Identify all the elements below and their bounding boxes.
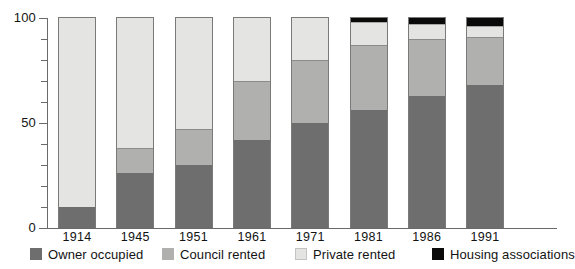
bar-segment-1971-private-rented <box>292 18 328 60</box>
bar-segment-1945-council-rented <box>117 148 153 173</box>
bar-segment-1914-private-rented <box>59 18 95 207</box>
bar-1951 <box>175 17 213 228</box>
legend-item-housing-associations: Housing associations <box>432 246 575 262</box>
bar-segment-1991-council-rented <box>467 37 503 85</box>
x-axis-tick-label-1971: 1971 <box>280 231 340 244</box>
plot-area: 050100 19141945195119611971198119861991 <box>0 0 562 236</box>
bar-segment-1945-owner-occupied <box>117 173 153 228</box>
bar-segment-1986-private-rented <box>409 24 445 39</box>
bars-layer <box>0 0 562 229</box>
legend-swatch-icon <box>295 248 307 260</box>
bar-segment-1991-housing-associations <box>467 18 503 26</box>
bar-1945 <box>116 17 154 228</box>
legend-item-council-rented: Council rented <box>162 246 265 262</box>
bar-segment-1945-private-rented <box>117 18 153 148</box>
x-axis-tick-label-1986: 1986 <box>397 231 457 244</box>
legend-item-owner-occupied: Owner occupied <box>30 246 143 262</box>
bar-segment-1971-owner-occupied <box>292 123 328 228</box>
bar-segment-1961-owner-occupied <box>234 140 270 228</box>
bar-segment-1951-council-rented <box>176 129 212 165</box>
bar-segment-1971-council-rented <box>292 60 328 123</box>
bar-segment-1914-owner-occupied <box>59 207 95 228</box>
x-axis-tick-label-1914: 1914 <box>47 231 107 244</box>
x-axis-tick-label-1951: 1951 <box>164 231 224 244</box>
chart-legend: Owner occupiedCouncil rentedPrivate rent… <box>0 246 562 266</box>
x-axis-tick-label-1991: 1991 <box>455 231 515 244</box>
x-axis-tick-label-1961: 1961 <box>222 231 282 244</box>
legend-label: Owner occupied <box>48 248 143 261</box>
legend-label: Private rented <box>313 248 395 261</box>
legend-swatch-icon <box>30 248 42 260</box>
legend-swatch-icon <box>432 248 444 260</box>
legend-item-private-rented: Private rented <box>295 246 395 262</box>
bar-segment-1986-owner-occupied <box>409 96 445 228</box>
legend-label: Housing associations <box>450 248 575 261</box>
bar-segment-1991-private-rented <box>467 26 503 37</box>
bar-segment-1961-council-rented <box>234 81 270 140</box>
bar-segment-1986-council-rented <box>409 39 445 96</box>
legend-label: Council rented <box>180 248 265 261</box>
bar-1981 <box>350 17 388 228</box>
bar-1991 <box>466 17 504 228</box>
bar-1986 <box>408 17 446 228</box>
bar-segment-1961-private-rented <box>234 18 270 81</box>
bar-segment-1981-owner-occupied <box>351 110 387 228</box>
bar-1971 <box>291 17 329 228</box>
bar-segment-1981-private-rented <box>351 22 387 45</box>
x-axis-tick-label-1945: 1945 <box>105 231 165 244</box>
legend-swatch-icon <box>162 248 174 260</box>
bar-1914 <box>58 17 96 228</box>
bar-segment-1951-private-rented <box>176 18 212 129</box>
bar-segment-1981-council-rented <box>351 45 387 110</box>
bar-segment-1991-owner-occupied <box>467 85 503 228</box>
x-axis-tick-label-1981: 1981 <box>339 231 399 244</box>
bar-1961 <box>233 17 271 228</box>
bar-segment-1951-owner-occupied <box>176 165 212 228</box>
